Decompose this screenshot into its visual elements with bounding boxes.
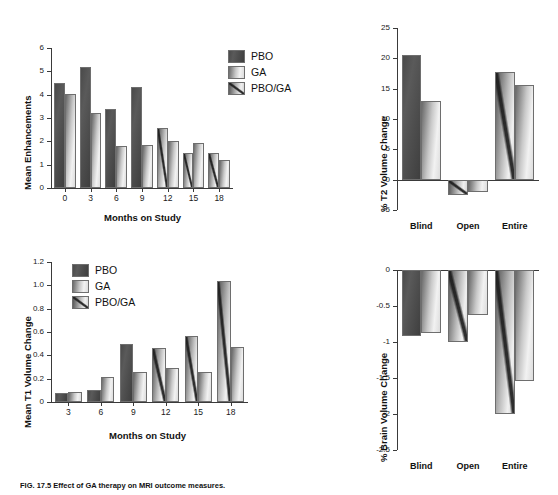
x-axis-category-label: 9 xyxy=(117,408,150,417)
x-axis-tick xyxy=(142,188,143,192)
x-axis-category-label: 9 xyxy=(129,194,155,203)
y-axis-title-t2-volume-change: % T2 Volume Change xyxy=(378,116,389,212)
bar-mean-enhancements-0-pbo xyxy=(54,83,65,188)
x-axis-category-label: 3 xyxy=(78,194,104,203)
x-axis-tick xyxy=(193,188,194,192)
bar-mean-enhancements-18-ga xyxy=(219,160,230,188)
x-axis-category-label: Blind xyxy=(398,462,445,471)
y-axis-tick xyxy=(393,180,397,181)
bar-brain-volume-change-entire-ga xyxy=(515,270,535,381)
y-axis-title-mean-t1-volume-change: Mean T1 Volume Change xyxy=(22,316,33,428)
x-axis-tick xyxy=(91,188,92,192)
y-axis-tick xyxy=(47,95,51,96)
y-axis-tick xyxy=(47,48,51,49)
y-axis-line xyxy=(51,48,52,188)
chart-mean-enhancements: 01234560369121518 Mean Enhancements Mont… xyxy=(0,0,290,240)
bar-mean-t1-volume-change-9-ga xyxy=(133,372,147,402)
y-axis-tick xyxy=(393,378,397,379)
bar-mean-enhancements-3-pbo xyxy=(80,67,91,188)
x-axis-category-label: 18 xyxy=(206,194,232,203)
y-axis-tick xyxy=(47,379,51,380)
legend-swatch-pbo xyxy=(228,50,245,63)
bar-mean-t1-volume-change-15-pbo-ga xyxy=(185,336,199,402)
y-axis-tick xyxy=(47,118,51,119)
x-axis-tick xyxy=(65,188,66,192)
y-axis-tick xyxy=(393,450,397,451)
y-axis-tick-label: -1 xyxy=(360,338,390,346)
y-axis-tick xyxy=(47,141,51,142)
bar-mean-t1-volume-change-3-pbo xyxy=(55,393,69,402)
y-axis-tick xyxy=(47,332,51,333)
x-axis-tick xyxy=(116,188,117,192)
figure-panel-grid: 01234560369121518 Mean Enhancements Mont… xyxy=(0,0,558,495)
y-axis-tick-label: 0.8 xyxy=(14,305,44,313)
y-axis-tick xyxy=(393,210,397,211)
y-axis-title-mean-enhancements: Mean Enhancements xyxy=(22,96,33,191)
y-axis-tick xyxy=(47,355,51,356)
x-axis-category-label: Blind xyxy=(398,222,445,231)
bar-mean-t1-volume-change-6-pbo xyxy=(87,390,101,402)
legend-swatch-pbo xyxy=(72,264,89,277)
bar-mean-enhancements-6-ga xyxy=(116,146,127,188)
plot-area-brain-volume-change: -2.5-2-1.5-1-0.50BlindOpenEntire xyxy=(398,270,538,450)
bar-mean-t1-volume-change-18-ga xyxy=(231,347,245,402)
x-axis-category-label: 15 xyxy=(181,194,207,203)
x-axis-category-label: 15 xyxy=(182,408,215,417)
legend-label: GA xyxy=(95,280,110,293)
bar-t2-volume-change-blind-pbo xyxy=(402,55,422,179)
x-axis-title-mean-enhancements: Months on Study xyxy=(40,212,245,223)
y-axis-tick xyxy=(393,89,397,90)
bar-mean-t1-volume-change-12-ga xyxy=(166,368,180,402)
bar-t2-volume-change-open-pbo-ga xyxy=(448,180,468,195)
bar-brain-volume-change-open-pbo-ga xyxy=(448,270,468,342)
bar-mean-enhancements-15-pbo-ga xyxy=(183,153,194,188)
x-axis-tick xyxy=(219,188,220,192)
bar-mean-enhancements-18-pbo-ga xyxy=(208,153,219,188)
plot-area-mean-enhancements: 01234560369121518 xyxy=(52,48,232,188)
x-axis-category-label: 0 xyxy=(52,194,78,203)
bar-mean-enhancements-6-pbo xyxy=(105,109,116,188)
y-axis-line xyxy=(397,28,398,210)
x-axis-category-label: Open xyxy=(445,462,492,471)
y-axis-tick xyxy=(47,165,51,166)
y-axis-tick-label: 25 xyxy=(360,24,390,32)
y-axis-tick-label: 1.0 xyxy=(14,281,44,289)
bar-mean-enhancements-0-ga xyxy=(65,94,76,188)
bar-brain-volume-change-entire-pbo-ga xyxy=(495,270,515,414)
bar-mean-t1-volume-change-12-pbo-ga xyxy=(152,348,166,402)
y-axis-tick-label: 15 xyxy=(360,85,390,93)
bar-t2-volume-change-entire-pbo-ga xyxy=(495,72,515,180)
bar-t2-volume-change-entire-ga xyxy=(515,85,535,180)
bar-brain-volume-change-open-ga xyxy=(468,270,488,315)
figure-caption: FIG. 17.5 Effect of GA therapy on MRI ou… xyxy=(20,481,320,493)
bar-mean-t1-volume-change-6-ga xyxy=(101,377,115,402)
y-axis-tick-label: 1.2 xyxy=(14,258,44,266)
legend-label: PBO/GA xyxy=(95,296,135,309)
x-axis-category-label: 3 xyxy=(52,408,85,417)
legend-label: GA xyxy=(251,66,266,79)
chart-brain-volume-change: -2.5-2-1.5-1-0.50BlindOpenEntire % Brain… xyxy=(290,240,558,490)
y-axis-tick xyxy=(393,28,397,29)
bar-mean-enhancements-9-pbo xyxy=(131,87,142,188)
bar-mean-enhancements-3-ga xyxy=(91,113,102,188)
x-axis-tick xyxy=(101,402,102,406)
x-axis-tick xyxy=(231,402,232,406)
y-axis-tick-label: -0.5 xyxy=(360,302,390,310)
bar-mean-t1-volume-change-15-ga xyxy=(198,372,212,402)
x-axis-title-mean-t1-volume-change: Months on Study xyxy=(40,430,255,441)
x-axis-tick xyxy=(133,402,134,406)
y-axis-tick xyxy=(47,309,51,310)
x-axis-category-label: 6 xyxy=(103,194,129,203)
bar-mean-t1-volume-change-3-ga xyxy=(68,392,82,402)
legend-swatch-pbo-ga xyxy=(72,296,89,309)
x-axis-baseline xyxy=(51,402,248,403)
y-axis-tick xyxy=(393,119,397,120)
x-axis-tick xyxy=(198,402,199,406)
chart-mean-t1-volume-change: 00.20.40.60.81.01.2369121518 Mean T1 Vol… xyxy=(0,240,290,490)
x-axis-category-label: 18 xyxy=(215,408,248,417)
bar-mean-t1-volume-change-18-pbo-ga xyxy=(217,281,231,402)
bar-t2-volume-change-blind-ga xyxy=(421,101,441,180)
x-axis-category-label: Entire xyxy=(491,222,538,231)
y-axis-tick-label: 20 xyxy=(360,54,390,62)
bar-mean-enhancements-12-pbo-ga xyxy=(157,128,168,188)
